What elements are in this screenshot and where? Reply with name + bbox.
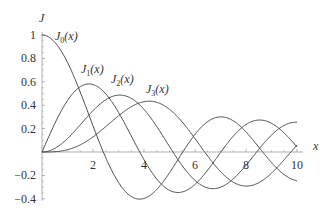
x-tick-label: 4 <box>141 158 147 172</box>
series-label-j3: J3(x) <box>146 82 169 98</box>
y-tick-label: 0.8 <box>21 51 36 65</box>
bessel-chart: 246810−0.4−0.20.20.40.60.81xJJ0(x)J1(x)J… <box>0 0 333 214</box>
series-label-arg: (x) <box>155 82 168 96</box>
y-tick-label: 1 <box>30 28 36 42</box>
series-label-j0: J0(x) <box>55 29 78 45</box>
x-tick-label: 2 <box>90 158 96 172</box>
axes <box>42 32 303 201</box>
series-label-arg: (x) <box>90 62 103 76</box>
x-tick-label: 6 <box>192 158 198 172</box>
y-tick-label: 0.4 <box>21 98 36 112</box>
series-line-j1 <box>42 84 297 193</box>
y-tick-label: 0.6 <box>21 75 36 89</box>
series-label-j2: J2(x) <box>111 72 134 88</box>
y-axis-label: J <box>39 11 45 25</box>
series-label-arg: (x) <box>120 72 133 86</box>
y-tick-label: −0.4 <box>14 192 36 206</box>
series-line-j0 <box>42 35 297 199</box>
y-tick-label: 0.2 <box>21 122 36 136</box>
x-tick-label: 8 <box>243 158 249 172</box>
curves <box>42 35 297 199</box>
x-axis-label: x <box>312 139 319 153</box>
y-tick-label: −0.2 <box>14 168 36 182</box>
series-label-j1: J1(x) <box>81 62 104 78</box>
series-label-arg: (x) <box>64 29 77 43</box>
x-tick-label: 10 <box>291 158 303 172</box>
